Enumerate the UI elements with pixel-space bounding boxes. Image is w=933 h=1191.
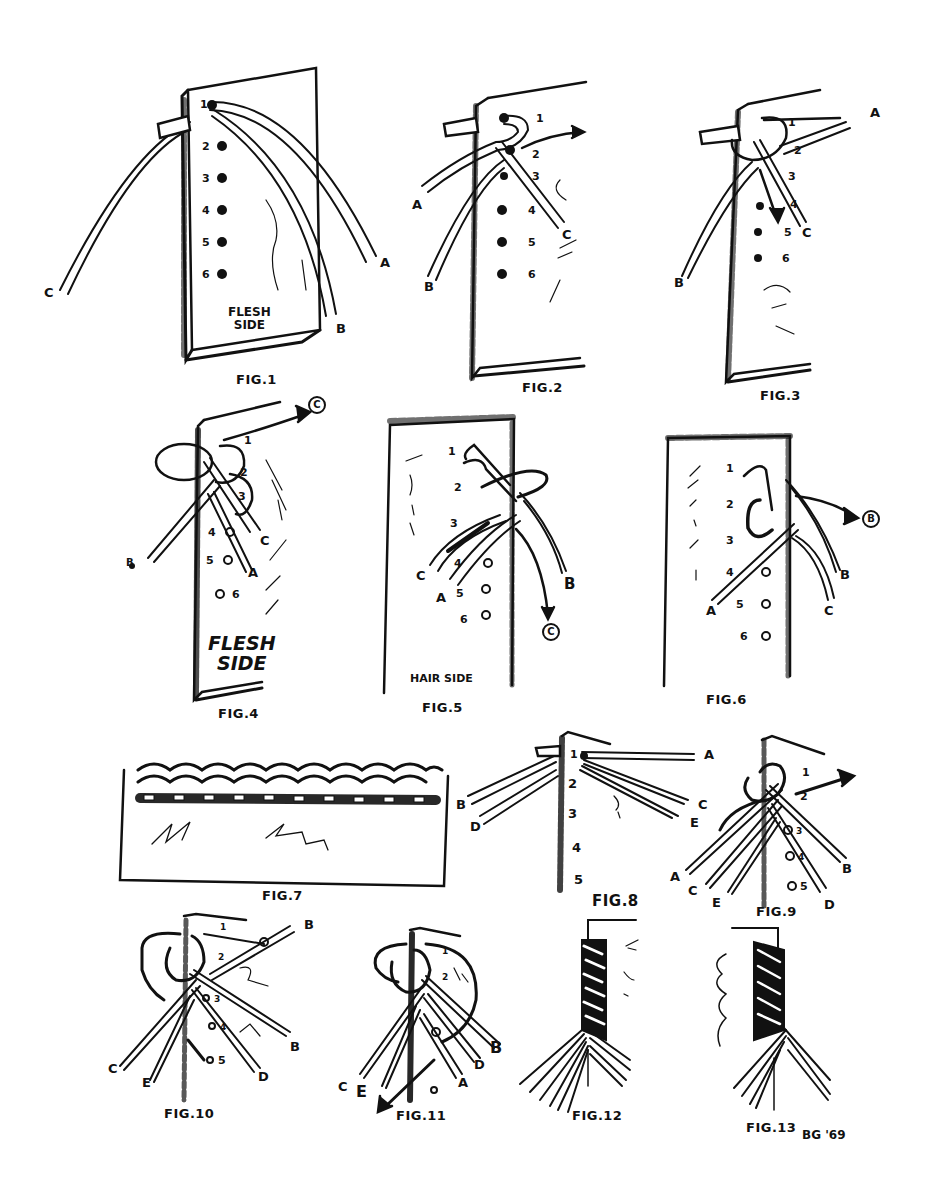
hole-number: 3 [788, 170, 796, 183]
strand-label: D [258, 1070, 269, 1083]
figure-10: 1 2 3 4 5 B B C E D FIG.10 [100, 900, 330, 1130]
hole-number: 5 [456, 587, 464, 600]
hole-number: 2 [726, 498, 734, 511]
callout-circle: C [308, 396, 326, 414]
figure-2: 1 2 3 4 5 6 A B C FIG.2 [400, 70, 600, 400]
hole-number: 5 [800, 880, 808, 893]
figure-12: FIG.12 [510, 910, 690, 1130]
callout-circle: C [542, 623, 560, 641]
fig7-drawing [110, 740, 460, 910]
hole-number: 1 [802, 766, 810, 779]
hole-number: 6 [782, 252, 790, 265]
hole-number: 5 [202, 236, 210, 249]
strand-label: B [564, 577, 575, 592]
hole-number: 1 [570, 748, 578, 761]
hole-number: 3 [214, 994, 220, 1004]
strand-label: C [416, 569, 426, 582]
strand-label: C [44, 286, 54, 299]
hole-number: 4 [454, 557, 462, 570]
side-label: FLESH SIDE [208, 634, 276, 674]
hole-number: 4 [798, 852, 804, 862]
strand-label: E [356, 1084, 367, 1100]
hole-number: 3 [568, 806, 577, 821]
strand-label: D [470, 820, 481, 833]
strand-label: C [108, 1062, 118, 1075]
figure-caption: FIG.12 [572, 1108, 622, 1123]
artist-signature: BG '69 [802, 1128, 846, 1142]
hole-number: 2 [454, 481, 462, 494]
hole-number: 2 [202, 140, 210, 153]
strand-label: A [436, 591, 446, 604]
hole-number: 5 [218, 1054, 226, 1067]
figure-caption: FIG.13 [746, 1120, 796, 1135]
side-label-line: SIDE [208, 654, 276, 674]
strand-label: C [562, 228, 572, 241]
hole-number: 6 [232, 588, 240, 601]
figure-caption: FIG.8 [592, 892, 639, 910]
hole-number: 3 [796, 826, 802, 836]
hole-number: 2 [568, 776, 577, 791]
strand-label: C [688, 884, 698, 897]
figure-9: 1 2 3 4 5 A C E B D FIG.9 [660, 730, 880, 930]
hole-number: 2 [532, 148, 540, 161]
figure-11: 1 2 B C E D A FIG.11 [330, 910, 530, 1130]
side-label: HAIR SIDE [410, 673, 473, 685]
hole-number: 4 [572, 840, 581, 855]
hole-number: 1 [726, 462, 734, 475]
hole-number: 2 [800, 790, 808, 803]
hole-number: 3 [202, 172, 210, 185]
hole-number: 4 [220, 1022, 226, 1032]
strand-label: A [706, 604, 716, 617]
hole-number: 4 [790, 198, 798, 211]
figure-6: B 1 2 3 4 5 6 A C B FIG.6 [650, 420, 900, 720]
side-label-line: FLESH [228, 306, 271, 319]
strand-label: C [824, 604, 834, 617]
hole-number: 5 [736, 598, 744, 611]
strand-label: B [304, 918, 314, 931]
strand-label: B [840, 568, 850, 581]
callout-circle: B [862, 510, 880, 528]
hole-number: 5 [528, 236, 536, 249]
fig5-drawing [370, 405, 630, 725]
strand-label: B [290, 1040, 300, 1053]
fig1-drawing [40, 60, 400, 400]
figure-5: C 1 2 3 4 5 6 C A B HAIR SIDE FIG.5 [370, 405, 630, 725]
figure-caption: FIG.5 [422, 700, 463, 715]
hole-number: 3 [532, 170, 540, 183]
hole-number: 2 [442, 972, 448, 982]
hole-number: 1 [200, 98, 208, 111]
figure-caption: FIG.2 [522, 380, 563, 395]
hole-number: 5 [206, 554, 214, 567]
fig12-drawing [510, 910, 690, 1130]
hole-number: 6 [528, 268, 536, 281]
fig9-drawing [660, 730, 880, 930]
hole-number: 4 [208, 526, 216, 539]
hole-number: 5 [574, 872, 583, 887]
hole-number: 1 [536, 112, 544, 125]
strand-label: A [670, 870, 680, 883]
strand-label: B [336, 322, 346, 335]
fig6-drawing [650, 420, 900, 720]
hole-number: 1 [442, 946, 448, 956]
fig10-drawing [100, 900, 330, 1130]
figure-13: FIG.13 BG '69 [690, 910, 890, 1150]
hole-number: 3 [238, 490, 246, 503]
strand-label: C [260, 534, 270, 547]
figure-caption: FIG.1 [236, 372, 277, 387]
fig13-drawing [690, 910, 890, 1150]
strand-label: A [248, 566, 258, 579]
hole-number: 1 [244, 434, 252, 447]
strand-label: C [338, 1080, 348, 1093]
strand-label: A [870, 106, 880, 119]
side-label-line: FLESH [208, 634, 276, 654]
strand-label: C [802, 226, 812, 239]
strand-label: B [490, 1040, 502, 1056]
figure-caption: FIG.10 [164, 1106, 214, 1121]
strand-label: E [712, 896, 721, 909]
hole-number: 5 [784, 226, 792, 239]
strand-label: B [424, 280, 434, 293]
figure-caption: FIG.11 [396, 1108, 446, 1123]
fig3-drawing [660, 80, 900, 410]
figure-caption: FIG.6 [706, 692, 747, 707]
strand-label: D [474, 1058, 485, 1071]
